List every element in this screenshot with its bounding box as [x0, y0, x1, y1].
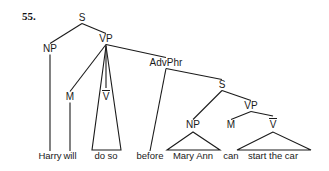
triangle-layer: [92, 46, 311, 150]
tree-node-vbar2: V: [270, 119, 277, 130]
exercise-number: 55.: [22, 10, 36, 22]
tree-node-m1: M: [66, 91, 74, 102]
tree-node-m2: M: [227, 119, 235, 130]
syntax-tree-figure: SNPVPMVAdvPhrSNPVPMV Harrywilldo sobefor…: [0, 0, 329, 171]
tree-branch: [222, 91, 251, 101]
tree-node-np1: NP: [43, 43, 57, 54]
tree-branch: [50, 24, 82, 44]
phrase-triangle: [167, 132, 220, 150]
tree-branch: [251, 112, 273, 117]
tree-node-np2: NP: [186, 119, 200, 130]
tree-branch: [150, 69, 166, 152]
tree-branch: [193, 91, 222, 120]
tree-node-vp2: VP: [244, 100, 258, 111]
tree-canvas: SNPVPMVAdvPhrSNPVPMV Harrywilldo sobefor…: [0, 0, 329, 171]
tree-node-s1: S: [79, 12, 86, 23]
tree-leaf-l7: start the car: [248, 150, 298, 161]
tree-leaf-l1: Harry: [38, 150, 61, 161]
tree-leaf-l2: will: [62, 150, 76, 161]
tree-branch: [106, 45, 166, 58]
tree-branch: [166, 69, 222, 80]
phrase-triangle: [237, 132, 311, 150]
tree-leaf-l4: before: [137, 150, 164, 161]
node-label-layer: SNPVPMVAdvPhrSNPVPMV: [43, 12, 277, 130]
tree-node-vbar1: V: [103, 91, 110, 102]
tree-leaf-l6: can: [223, 150, 238, 161]
tree-leaf-l5: Mary Ann: [173, 150, 213, 161]
tree-leaf-l3: do so: [94, 150, 117, 161]
tree-branch: [82, 24, 106, 34]
leaf-label-layer: Harrywilldo sobeforeMary Anncanstart the…: [38, 150, 298, 161]
tree-node-advphr: AdvPhr: [150, 57, 183, 68]
tree-node-vp1: VP: [99, 33, 113, 44]
tree-node-s2: S: [219, 79, 226, 90]
branch-layer: [50, 24, 273, 152]
